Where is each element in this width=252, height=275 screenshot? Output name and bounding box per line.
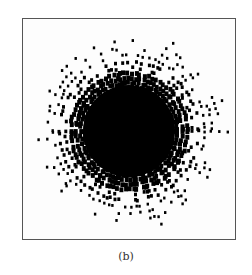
radial-scatter-pattern bbox=[23, 19, 235, 239]
figure-caption: (b) bbox=[0, 250, 252, 263]
figure-frame bbox=[22, 18, 236, 240]
